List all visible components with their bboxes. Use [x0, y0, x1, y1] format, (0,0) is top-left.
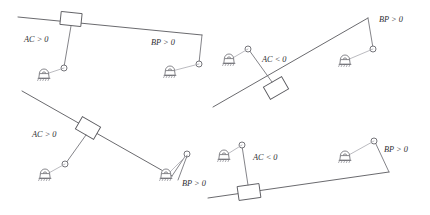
connecting-rod-bp	[199, 35, 202, 63]
panel-bottom-left: AC > 0 BP > 0	[22, 91, 207, 188]
connecting-rod-ac	[242, 146, 248, 185]
bp-label: BP > 0	[384, 145, 409, 154]
crank-link-right	[347, 49, 373, 60]
beam-line	[18, 17, 202, 35]
slider-block-icon[interactable]	[263, 77, 288, 100]
ground-bearing-icon	[159, 169, 172, 181]
ground-bearing-icon	[338, 151, 351, 163]
connecting-rod-bp	[368, 18, 373, 48]
slider-block-icon[interactable]	[75, 117, 100, 140]
slider-block-icon[interactable]	[237, 184, 261, 201]
ground-bearing-icon	[37, 69, 50, 81]
diagram-canvas: AC > 0 BP > 0 AC < 0 BP > 0	[0, 0, 430, 215]
bp-label: BP > 0	[379, 15, 404, 24]
connecting-rod-ac	[64, 26, 71, 67]
bp-label: BP > 0	[151, 38, 176, 47]
ac-label: AC > 0	[23, 35, 49, 44]
bp-label: BP > 0	[182, 179, 207, 188]
ground-bearing-icon	[217, 150, 230, 162]
panel-top-left: AC > 0 BP > 0	[18, 11, 202, 81]
mechanism-diagram: AC > 0 BP > 0 AC < 0 BP > 0	[0, 0, 430, 215]
crank-link-right	[172, 64, 199, 71]
ac-label: AC < 0	[261, 55, 287, 64]
connecting-rod-ac	[66, 135, 86, 163]
ground-bearing-icon	[163, 66, 176, 78]
ac-label: AC < 0	[252, 153, 278, 162]
ground-bearing-icon	[222, 54, 235, 66]
ground-bearing-icon	[338, 55, 351, 67]
beam-line	[208, 172, 389, 198]
ac-label: AC > 0	[31, 130, 57, 139]
slider-block-icon[interactable]	[60, 11, 82, 26]
crank-link-right	[347, 141, 374, 156]
panel-top-right: AC < 0 BP > 0	[213, 15, 404, 107]
ground-bearing-icon	[38, 169, 51, 181]
panel-bottom-right: AC < 0 BP > 0	[208, 138, 409, 200]
